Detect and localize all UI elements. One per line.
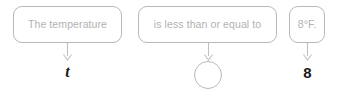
answer-variable: t: [52, 61, 83, 83]
answer-number-label: 8: [303, 65, 311, 80]
phrase-box-value: 8°F.: [289, 6, 325, 43]
phrase-box-subject-label: The temperature: [28, 19, 107, 30]
down-arrow-icon: [61, 43, 74, 61]
answer-variable-label: t: [65, 64, 69, 80]
down-arrow-icon: [202, 43, 215, 61]
phrase-box-subject: The temperature: [13, 6, 122, 43]
sentence-to-inequality-diagram: The temperature is less than or equal to…: [0, 0, 339, 93]
answer-operator-input[interactable]: [194, 61, 222, 89]
phrase-box-relation-label: is less than or equal to: [154, 19, 261, 30]
phrase-box-relation: is less than or equal to: [138, 6, 277, 43]
down-arrow-icon: [301, 43, 314, 61]
answer-number: 8: [292, 61, 323, 83]
phrase-box-value-label: 8°F.: [298, 19, 317, 30]
